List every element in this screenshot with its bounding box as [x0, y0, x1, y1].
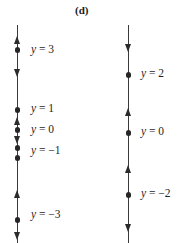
equilibrium-point — [15, 155, 21, 161]
phase-line-figure: (d) y = 3y = 1y = 0y = −1y = −3y = 2y = … — [0, 0, 177, 243]
flow-arrow-down-icon — [14, 232, 20, 240]
equilibrium-point — [15, 107, 21, 113]
equilibrium-point — [126, 192, 132, 198]
phase-line-axis-left — [17, 25, 18, 243]
flow-arrow-down-icon — [14, 136, 20, 144]
equilibrium-point — [15, 47, 21, 53]
flow-arrow-down-icon — [14, 69, 20, 77]
flow-arrow-down-icon — [125, 224, 131, 232]
equilibrium-label: y = 0 — [31, 123, 54, 135]
flow-arrow-up-icon — [14, 36, 20, 44]
equilibrium-label: y = 3 — [31, 43, 54, 55]
flow-arrow-up-icon — [125, 165, 131, 173]
equilibrium-label: y = 2 — [141, 67, 164, 79]
equilibrium-label: y = 1 — [31, 102, 54, 114]
flow-arrow-down-icon — [125, 44, 131, 52]
equilibrium-label: y = 0 — [141, 125, 164, 137]
equilibrium-point — [15, 145, 21, 151]
equilibrium-label: y = −3 — [31, 208, 61, 220]
equilibrium-point — [126, 130, 132, 136]
panel-label: (d) — [75, 4, 88, 16]
flow-arrow-up-icon — [125, 108, 131, 116]
equilibrium-point — [15, 127, 21, 133]
equilibrium-label: y = −2 — [141, 187, 171, 199]
flow-arrow-up-icon — [14, 117, 20, 125]
equilibrium-label: y = −1 — [31, 144, 61, 156]
equilibrium-point — [15, 217, 21, 223]
flow-arrow-up-icon — [14, 190, 20, 198]
equilibrium-point — [126, 72, 132, 78]
